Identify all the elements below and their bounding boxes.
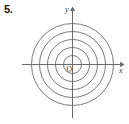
figure-container: 5. y x O bbox=[0, 0, 129, 124]
x-axis-label: x bbox=[118, 66, 123, 75]
concentric-circles-plot: y x O bbox=[0, 0, 129, 124]
y-axis-arrowhead bbox=[70, 7, 75, 12]
y-axis-label: y bbox=[64, 5, 69, 14]
origin-label: O bbox=[67, 65, 73, 74]
